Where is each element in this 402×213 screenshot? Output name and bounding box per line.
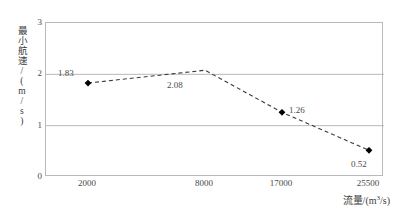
series-line (88, 70, 369, 150)
x-axis-tick-labels: 2000 8000 17000 25500 (45, 178, 383, 192)
x-axis-title-main: 流量/(m (343, 195, 377, 206)
y-axis-tick-labels: 3 2 1 0 (26, 0, 42, 213)
x-axis-title-tail: /s) (380, 195, 390, 206)
y-tick-label: 2 (28, 68, 42, 78)
x-axis-title: 流量/(m3/s) (343, 192, 390, 207)
y-tick-label: 3 (28, 17, 42, 27)
data-label-3: 1.26 (289, 105, 305, 115)
plot-area: 1.83 2.08 1.26 0.52 (45, 22, 383, 176)
data-label-1: 1.83 (58, 68, 74, 78)
data-point-marker (85, 80, 92, 87)
x-tick-label: 17000 (270, 178, 293, 188)
chart-canvas (46, 23, 384, 177)
x-tick-label: 25500 (357, 178, 380, 188)
x-tick-label: 2000 (78, 178, 96, 188)
data-point-marker (279, 109, 286, 116)
chart-figure: 最小航速/(m/s) 3 2 1 0 1.83 2.08 1.26 0.52 2… (0, 0, 402, 213)
data-label-2: 2.08 (167, 80, 183, 90)
y-tick-label: 1 (28, 120, 42, 130)
y-tick-label: 0 (28, 171, 42, 181)
data-point-marker (366, 147, 373, 154)
x-tick-label: 8000 (195, 178, 213, 188)
data-label-4: 0.52 (351, 159, 367, 169)
